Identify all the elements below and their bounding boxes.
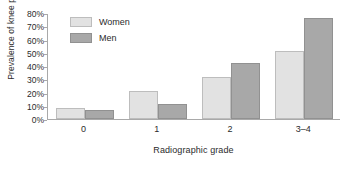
y-axis-tick-mark — [44, 41, 47, 42]
bar-women-grade-1 — [129, 91, 158, 119]
legend-item-men: Men — [70, 31, 130, 44]
x-axis-title: Radiographic grade — [47, 145, 340, 155]
bar-men-grade-1 — [158, 104, 187, 119]
knee-pain-prevalence-bar-chart: Prevalence of knee pain 0%10%20%30%40%50… — [0, 0, 347, 170]
y-axis-tick-mark — [44, 27, 47, 28]
y-axis-tick-label: 70% — [14, 22, 44, 32]
y-axis-tick-mark — [44, 54, 47, 55]
y-axis-tick-label: 0% — [14, 115, 44, 125]
y-axis-tick-label: 50% — [14, 49, 44, 59]
x-axis-tick-label: 2 — [228, 124, 233, 134]
y-axis-tick-mark — [44, 14, 47, 15]
legend-swatch-women — [70, 17, 92, 27]
y-axis-tick-mark — [44, 67, 47, 68]
x-axis-tick-label: 0 — [81, 124, 86, 134]
legend-item-women: Women — [70, 15, 130, 28]
bar-men-grade-2 — [231, 63, 260, 119]
y-axis-tick-label: 10% — [14, 102, 44, 112]
bar-women-grade-2 — [202, 77, 231, 119]
x-axis-tick-label: 3–4 — [296, 124, 311, 134]
bar-women-grade-3-4 — [275, 51, 304, 119]
y-axis-tick-label: 80% — [14, 9, 44, 19]
bar-group — [202, 14, 260, 119]
legend-swatch-men — [70, 33, 92, 43]
y-axis-tick-mark — [44, 80, 47, 81]
legend-label: Men — [99, 33, 117, 43]
bar-group — [129, 14, 187, 119]
x-axis-tick-labels: 0123–4 — [47, 124, 340, 138]
bar-men-grade-3-4 — [304, 18, 333, 119]
y-axis-tick-labels: 0%10%20%30%40%50%60%70%80% — [14, 14, 44, 120]
x-axis-line — [47, 119, 340, 120]
y-axis-tick-mark — [44, 107, 47, 108]
bar-group — [275, 14, 333, 119]
y-axis-tick-label: 20% — [14, 89, 44, 99]
legend: WomenMen — [70, 15, 130, 47]
bar-men-grade-0 — [85, 110, 114, 119]
y-axis-tick-mark — [44, 94, 47, 95]
y-axis-tick-label: 30% — [14, 75, 44, 85]
y-axis-tick-label: 60% — [14, 36, 44, 46]
y-axis-tick-label: 40% — [14, 62, 44, 72]
x-axis-tick-label: 1 — [154, 124, 159, 134]
bar-women-grade-0 — [56, 108, 85, 119]
legend-label: Women — [99, 17, 130, 27]
y-axis-tick-mark — [44, 120, 47, 121]
